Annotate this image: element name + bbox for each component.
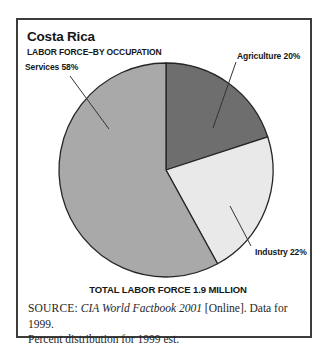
source-line-1: SOURCE: CIA World Factbook 2001 [Online]… [28, 301, 306, 332]
source-line-2: Percent distribution for 1999 est. [28, 332, 306, 348]
total-labor-force-note: TOTAL LABOR FORCE 1.9 MILLION [20, 284, 316, 295]
slice-label-agriculture: Agriculture 20% [237, 51, 300, 61]
figure-page: Costa Rica LABOR FORCE–BY OCCUPATION Ser… [0, 0, 324, 355]
slice-label-services: Services 58% [25, 62, 78, 72]
slice-label-industry: Industry 22% [255, 247, 307, 257]
source-note: SOURCE: CIA World Factbook 2001 [Online]… [28, 301, 306, 348]
source-work-title: CIA World Factbook 2001 [81, 302, 202, 314]
source-label: SOURCE: [28, 302, 78, 314]
pie-slices-group [59, 63, 273, 277]
